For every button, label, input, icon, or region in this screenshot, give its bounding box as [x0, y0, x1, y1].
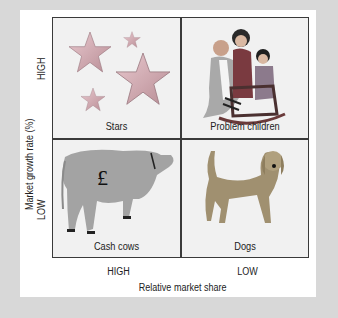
quadrant-problem-children: Problem children — [181, 18, 309, 138]
svg-text:£: £ — [97, 165, 108, 190]
x-axis-high-label: HIGH — [107, 266, 130, 277]
quadrant-stars: Stars — [53, 18, 180, 138]
x-axis-title: Relative market share — [139, 282, 227, 293]
y-axis-title: Market growth rate (%) — [24, 118, 35, 210]
y-axis-low-label: LOW — [36, 199, 47, 220]
quadrant-dogs: Dogs — [181, 139, 309, 258]
quadrant-label-stars: Stars — [61, 120, 173, 132]
quadrant-label-dogs: Dogs — [189, 240, 302, 252]
y-axis-high-label: HIGH — [36, 58, 47, 81]
quadrant-label-cash-cows: Cash cows — [61, 240, 173, 252]
quadrant-cash-cows: £ Cash cows — [53, 139, 180, 258]
quadrant-label-problem-children: Problem children — [189, 120, 302, 132]
x-axis-low-label: LOW — [237, 266, 258, 277]
